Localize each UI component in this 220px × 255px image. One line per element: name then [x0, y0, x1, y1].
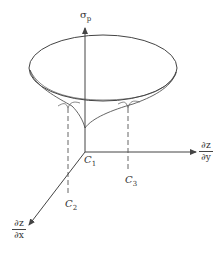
sigma-subscript: p [87, 15, 91, 23]
dz-dy-numerator: ∂z [201, 141, 210, 150]
c3-label: C3 [125, 175, 137, 185]
sigma-symbol: σ [80, 9, 87, 20]
dz-dx-axis [29, 152, 85, 225]
c3-subscript: 3 [133, 180, 137, 188]
c2-label: C2 [65, 199, 77, 209]
dz-dx-label: ∂z ∂x [12, 219, 26, 240]
dz-dy-denominator: ∂y [201, 153, 211, 162]
c1-symbol: C [84, 154, 92, 165]
c3-symbol: C [125, 174, 133, 185]
funnel-rim-ellipse [29, 35, 177, 101]
dz-dx-denominator: ∂x [14, 231, 24, 240]
c1-subscript: 1 [92, 160, 96, 168]
dz-dy-label: ∂z ∂y [199, 141, 213, 162]
c1-label: C1 [84, 155, 96, 165]
sigma-p-label: σp [80, 9, 91, 20]
c2-subscript: 2 [73, 204, 77, 212]
c2-symbol: C [65, 198, 73, 209]
diagram-canvas [0, 0, 220, 255]
funnel-surface [30, 70, 176, 128]
dz-dx-numerator: ∂z [14, 219, 23, 228]
